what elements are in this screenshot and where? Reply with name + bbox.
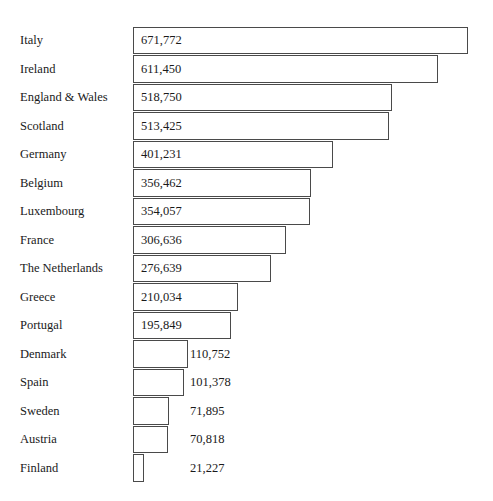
chart-row: Denmark110,752: [0, 340, 493, 369]
bar-value-label: 210,034: [141, 283, 182, 312]
bar-value-label: 276,639: [141, 254, 182, 283]
chart-row: The Netherlands276,639: [0, 254, 493, 283]
bar-value-label: 306,636: [141, 226, 182, 255]
bar-value-label: 401,231: [141, 140, 182, 169]
chart-row: Belgium356,462: [0, 169, 493, 198]
category-label: Spain: [20, 368, 48, 397]
chart-row: Italy671,772: [0, 26, 493, 55]
category-label: Greece: [20, 283, 55, 312]
category-label: Portugal: [20, 311, 62, 340]
category-label: Finland: [20, 454, 58, 483]
category-label: Belgium: [20, 169, 63, 198]
bar-value-label: 611,450: [141, 55, 181, 84]
category-label: England & Wales: [20, 83, 108, 112]
bar-value-label: 671,772: [141, 26, 182, 55]
bar-value-label: 354,057: [141, 197, 182, 226]
chart-row: Germany401,231: [0, 140, 493, 169]
category-label: Austria: [20, 425, 57, 454]
category-label: The Netherlands: [20, 254, 103, 283]
category-label: Italy: [20, 26, 43, 55]
bar-value-label: 356,462: [141, 169, 182, 198]
bar-value-label: 195,849: [141, 311, 182, 340]
category-label: Denmark: [20, 340, 67, 369]
bar: [133, 340, 188, 368]
category-label: France: [20, 226, 54, 255]
bar: [133, 426, 168, 454]
category-label: Germany: [20, 140, 67, 169]
chart-row: Sweden71,895: [0, 397, 493, 426]
chart-row: Austria70,818: [0, 425, 493, 454]
bar: [133, 27, 468, 55]
bar-value-label: 110,752: [190, 340, 230, 369]
bar: [133, 454, 144, 482]
bar-value-label: 70,818: [190, 425, 224, 454]
bar: [133, 369, 184, 397]
chart-row: Portugal195,849: [0, 311, 493, 340]
category-label: Luxembourg: [20, 197, 84, 226]
bar-value-label: 101,378: [190, 368, 231, 397]
category-label: Sweden: [20, 397, 60, 426]
chart-row: Scotland513,425: [0, 112, 493, 141]
bar-value-label: 71,895: [190, 397, 224, 426]
chart-row: England & Wales518,750: [0, 83, 493, 112]
bar-value-label: 21,227: [190, 454, 224, 483]
chart-row: France306,636: [0, 226, 493, 255]
chart-row: Ireland611,450: [0, 55, 493, 84]
bar-value-label: 513,425: [141, 112, 182, 141]
bar-chart: Italy671,772Ireland611,450England & Wale…: [0, 0, 493, 501]
chart-row: Finland21,227: [0, 454, 493, 483]
bar-value-label: 518,750: [141, 83, 182, 112]
bar: [133, 397, 169, 425]
category-label: Ireland: [20, 55, 55, 84]
chart-row: Spain101,378: [0, 368, 493, 397]
chart-row: Greece210,034: [0, 283, 493, 312]
chart-row: Luxembourg354,057: [0, 197, 493, 226]
category-label: Scotland: [20, 112, 64, 141]
